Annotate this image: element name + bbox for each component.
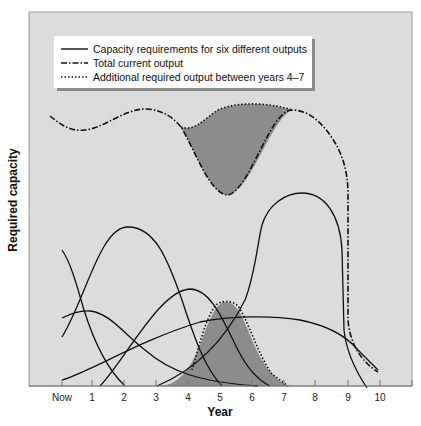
x-tick-label: 4 bbox=[185, 392, 191, 403]
x-tick-label: 10 bbox=[374, 392, 386, 403]
legend-label-additional: Additional required output between years… bbox=[93, 71, 304, 83]
x-tick-label: 7 bbox=[281, 392, 287, 403]
x-tick-label: 3 bbox=[153, 392, 159, 403]
x-tick-label: 2 bbox=[121, 392, 127, 403]
x-tick-label: 9 bbox=[345, 392, 351, 403]
x-tick-label: Now bbox=[52, 392, 73, 403]
y-axis-title: Required capacity bbox=[6, 148, 20, 252]
x-tick-label: 1 bbox=[89, 392, 95, 403]
legend-label-capacity: Capacity requirements for six different … bbox=[93, 43, 307, 55]
x-tick-label: 6 bbox=[249, 392, 255, 403]
capacity-chart: Now 1 2 3 4 5 6 7 8 9 10 Year Required c… bbox=[0, 0, 421, 426]
legend-label-total: Total current output bbox=[93, 57, 183, 69]
x-tick-label: 8 bbox=[312, 392, 318, 403]
x-axis-title: Year bbox=[207, 405, 233, 419]
x-tick-label: 5 bbox=[217, 392, 223, 403]
legend: Capacity requirements for six different … bbox=[54, 36, 315, 91]
